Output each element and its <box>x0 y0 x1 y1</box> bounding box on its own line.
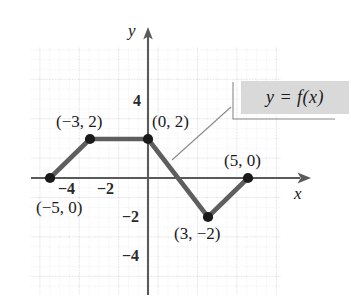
point-marker-0-2 <box>143 134 153 144</box>
y-tick-label-4: 4 <box>133 93 141 109</box>
x-axis-label: x <box>294 185 302 202</box>
x-tick-label-neg2: −2 <box>97 181 114 197</box>
point-label-5-0: (5, 0) <box>224 152 261 169</box>
x-tick-label-neg4: −4 <box>58 181 75 197</box>
point-label-neg3-2: (−3, 2) <box>56 113 102 130</box>
point-label-neg5-0: (−5, 0) <box>36 199 82 216</box>
legend-label: y = f(x) <box>266 87 324 108</box>
point-label-0-2: (0, 2) <box>152 113 189 130</box>
y-axis-label: y <box>128 22 136 39</box>
y-tick-label-neg4: −4 <box>122 248 139 264</box>
point-marker-neg5-0 <box>45 173 55 183</box>
point-label-3-neg2: (3, −2) <box>174 225 220 242</box>
graph-figure: y = f(x) y x −4 −2 4 −2 −4 (−3, 2) (0, 2… <box>0 0 351 308</box>
coordinate-plane <box>0 0 351 308</box>
point-marker-neg3-2 <box>85 134 95 144</box>
y-tick-label-neg2: −2 <box>122 209 139 225</box>
point-marker-5-0 <box>243 173 253 183</box>
legend-box: y = f(x) <box>241 81 349 114</box>
point-marker-3-neg2 <box>203 212 213 222</box>
